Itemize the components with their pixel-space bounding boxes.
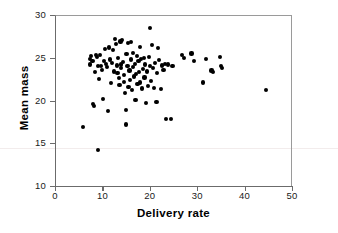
x-tick-label: 10 [90,190,114,201]
data-point [138,45,142,49]
data-point [142,75,146,79]
data-point [116,56,120,60]
data-point [92,104,96,108]
data-point [142,56,146,60]
data-point [121,60,125,64]
data-point [114,42,118,46]
plot-frame [55,15,292,186]
data-point [148,26,152,30]
y-tick [50,101,55,102]
data-point [145,69,149,73]
scan-artifact-corner [0,0,14,8]
data-point [129,57,133,61]
data-point [100,68,104,72]
data-point [96,148,100,152]
data-point [106,109,110,113]
data-point [204,57,208,61]
data-point [153,61,157,65]
data-point [124,108,128,112]
y-axis-title: Mean mass [18,38,30,158]
data-point [189,51,193,55]
data-point [124,122,128,126]
data-point [117,83,121,87]
data-point [127,68,131,72]
data-point [122,80,126,84]
data-point [110,61,114,65]
x-tick-label: 50 [280,190,304,201]
y-tick-label: 30 [20,9,46,20]
data-point [140,86,144,90]
x-tick-label: 20 [138,190,162,201]
data-point [143,62,147,66]
data-point [154,100,158,104]
data-point [115,71,119,75]
x-axis-line [55,186,292,187]
data-point [182,56,186,60]
data-point [152,86,156,90]
data-point [113,37,117,41]
data-point [147,55,151,59]
x-tick-label: 40 [233,190,257,201]
scatter-chart: 1015202530 01020304050 Delivery rate Mea… [0,0,338,233]
data-point [146,84,150,88]
y-tick [50,15,55,16]
data-point [161,68,165,72]
data-point [111,48,115,52]
x-axis-title: Delivery rate [55,207,292,219]
data-point [133,98,137,102]
data-point [218,55,222,59]
x-tick-label: 30 [185,190,209,201]
y-tick [50,58,55,59]
data-point [166,62,170,66]
y-tick [50,143,55,144]
data-point [90,59,94,63]
x-tick-label: 0 [43,190,67,201]
data-point [88,62,92,66]
data-point [128,78,132,82]
